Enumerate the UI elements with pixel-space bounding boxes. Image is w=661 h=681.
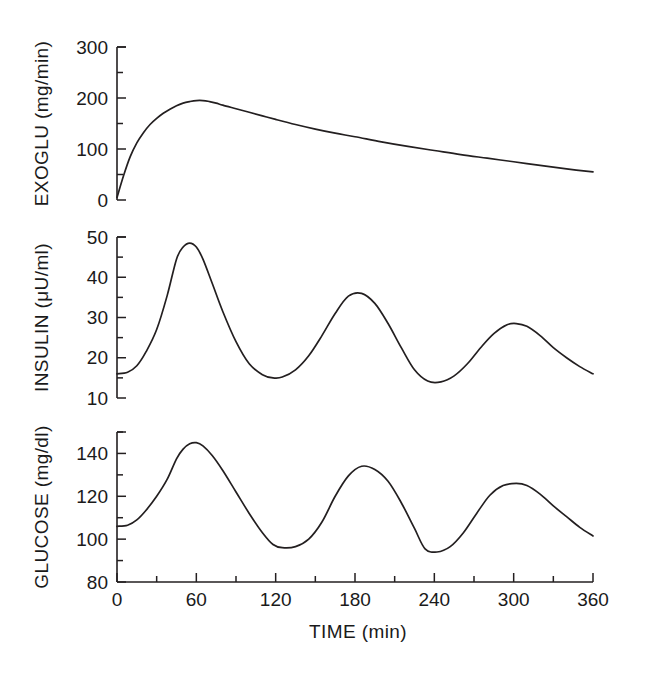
y-tick-label-bottom-100: 100 xyxy=(76,529,108,550)
x-tick-label-120: 120 xyxy=(260,589,292,610)
x-tick-label-240: 240 xyxy=(418,589,450,610)
triple-panel-line-chart: 0100200300EXOGLU (mg/min)1020304050INSUL… xyxy=(0,0,661,681)
curve-insulin xyxy=(117,243,593,383)
curve-glucose xyxy=(117,443,593,553)
y-tick-label-middle-30: 30 xyxy=(87,307,108,328)
y-tick-label-top-300: 300 xyxy=(76,37,108,58)
curve-exoglu xyxy=(117,100,593,197)
y-tick-label-middle-40: 40 xyxy=(87,267,108,288)
y-axis-title-bottom: GLUCOSE (mg/dl) xyxy=(31,425,52,588)
y-tick-label-top-100: 100 xyxy=(76,139,108,160)
y-tick-label-bottom-120: 120 xyxy=(76,486,108,507)
x-tick-label-60: 60 xyxy=(186,589,207,610)
x-tick-label-180: 180 xyxy=(339,589,371,610)
x-tick-label-360: 360 xyxy=(577,589,609,610)
y-tick-label-top-0: 0 xyxy=(97,190,108,211)
x-tick-label-300: 300 xyxy=(498,589,530,610)
figure-container: 0100200300EXOGLU (mg/min)1020304050INSUL… xyxy=(0,0,661,681)
y-axis-title-top: EXOGLU (mg/min) xyxy=(31,41,52,206)
y-tick-label-top-200: 200 xyxy=(76,88,108,109)
y-tick-label-middle-50: 50 xyxy=(87,227,108,248)
y-tick-label-bottom-140: 140 xyxy=(76,443,108,464)
y-tick-label-middle-10: 10 xyxy=(87,388,108,409)
y-axis-title-middle: INSULIN (μU/ml) xyxy=(31,243,52,392)
x-axis-title: TIME (min) xyxy=(309,621,407,642)
y-tick-label-bottom-80: 80 xyxy=(87,572,108,593)
x-tick-label-0: 0 xyxy=(112,589,123,610)
y-tick-label-middle-20: 20 xyxy=(87,347,108,368)
